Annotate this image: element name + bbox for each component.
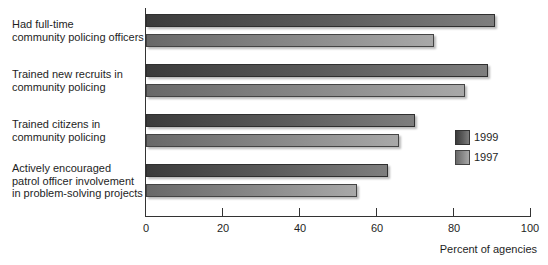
bar-1997-patrol-involvement [146,184,357,197]
bar-1997-trained-recruits [146,84,465,97]
x-tick-label-20: 20 [208,222,238,234]
x-axis-title: Percent of agencies [440,243,537,255]
category-label-trained-recruits: Trained new recruits in community polici… [12,68,123,93]
bar-1999-patrol-involvement [146,164,388,177]
bar-1997-trained-citizens [146,134,399,147]
x-tick-80 [453,208,454,216]
bar-1997-full-time-officers [146,34,434,47]
category-label-trained-citizens: Trained citizens in community policing [12,118,106,143]
category-label-patrol-involvement: Actively encouraged patrol officer invol… [12,162,143,200]
x-tick-label-80: 80 [439,222,469,234]
x-tick-label-0: 0 [131,222,161,234]
x-axis-line [145,216,531,217]
x-tick-60 [376,208,377,216]
x-tick-100 [530,208,531,216]
legend-swatch-1999 [455,130,470,145]
y-axis-line [145,8,146,217]
legend-swatch-1997 [455,150,470,165]
x-tick-40 [299,208,300,216]
x-tick-label-60: 60 [362,222,392,234]
bar-1999-full-time-officers [146,14,495,27]
x-tick-label-40: 40 [285,222,315,234]
legend-label-1999: 1999 [474,131,498,143]
category-label-full-time-officers: Had full-time community policing officer… [12,18,144,43]
legend-label-1997: 1997 [474,151,498,163]
x-tick-20 [222,208,223,216]
bar-1999-trained-recruits [146,64,488,77]
bar-1999-trained-citizens [146,114,415,127]
x-tick-label-100: 100 [515,222,545,234]
